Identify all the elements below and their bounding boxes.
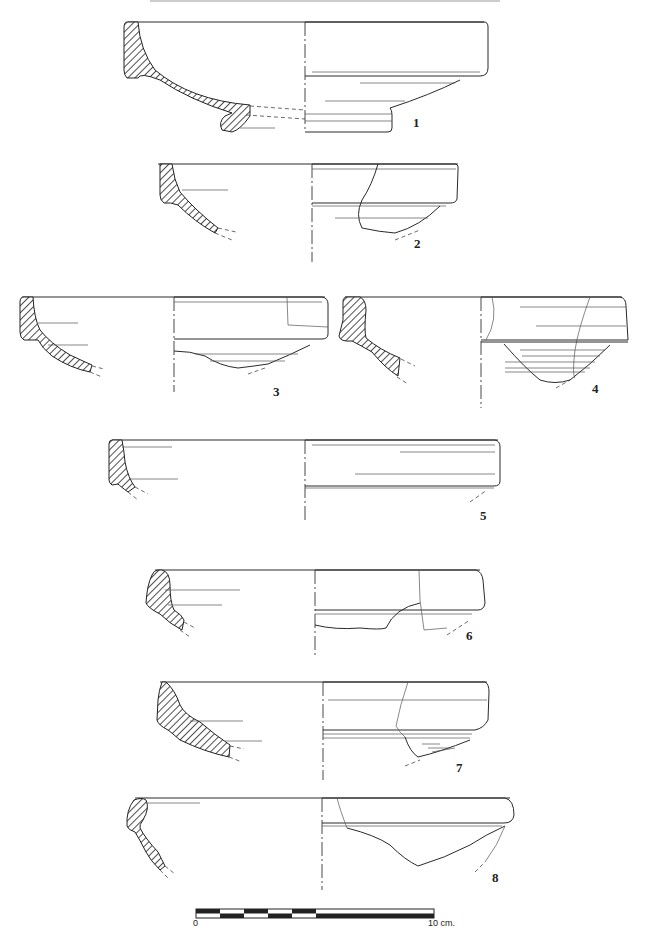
vessel-1: 1 xyxy=(124,22,488,132)
vessel-5-section xyxy=(109,440,135,492)
scale-bar: 0 10 cm. xyxy=(193,909,455,928)
vessel-4-label: 4 xyxy=(592,381,599,396)
vessel-6: 6 xyxy=(146,570,485,656)
vessel-8-section xyxy=(127,799,165,871)
vessel-7: 7 xyxy=(157,682,489,780)
pottery-plate: 1 2 3 xyxy=(0,0,647,947)
vessel-8: 8 xyxy=(127,798,514,890)
vessel-8-label: 8 xyxy=(492,870,499,885)
vessel-7-section xyxy=(157,682,230,757)
vessel-1-section xyxy=(124,22,250,132)
vessel-4-section xyxy=(339,297,400,376)
vessel-3-label: 3 xyxy=(273,384,280,399)
vessel-5: 5 xyxy=(109,440,500,523)
scale-end-label: 10 cm. xyxy=(428,918,455,928)
vessel-5-label: 5 xyxy=(480,508,487,523)
vessel-1-label: 1 xyxy=(413,115,420,130)
vessel-2-label: 2 xyxy=(414,236,421,251)
vessel-3: 3 xyxy=(20,297,328,399)
scale-start-label: 0 xyxy=(193,918,198,928)
vessel-6-section xyxy=(146,570,184,630)
vessel-2: 2 xyxy=(158,164,458,262)
vessel-4: 4 xyxy=(339,297,628,408)
vessel-3-section xyxy=(20,297,92,372)
vessel-7-label: 7 xyxy=(456,760,463,775)
vessel-6-label: 6 xyxy=(466,628,473,643)
vessel-2-section xyxy=(160,164,218,233)
